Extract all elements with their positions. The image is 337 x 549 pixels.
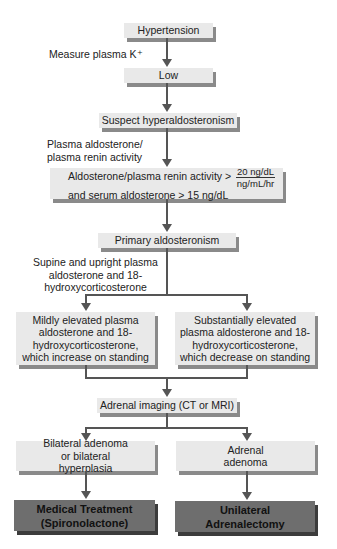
ratio-line-1: Aldosterone/plasma renin activity > — [68, 170, 231, 182]
connector-line — [166, 199, 168, 225]
node-label: Suspect hyperaldosteronism — [102, 114, 235, 127]
node-primary-aldosteronism: Primary aldosteronism — [98, 233, 236, 248]
arrowhead-icon — [242, 433, 252, 441]
node-label: Mildly elevated plasma aldosterone and 1… — [22, 314, 149, 364]
connector-line — [85, 294, 248, 296]
node-unilateral-adrenalectomy: Unilateral Adrenalectomy — [175, 501, 315, 532]
arrowhead-icon — [242, 303, 252, 311]
arrowhead-icon — [81, 433, 91, 441]
edge-label-plasma-ratio: Plasma aldosterone/ plasma renin activit… — [47, 138, 147, 163]
node-label: Hypertension — [138, 24, 200, 37]
fraction-numerator: 20 ng/dL — [236, 166, 275, 178]
node-suspect-hyperaldosteronism: Suspect hyperaldosteronism — [99, 113, 237, 128]
node-low: Low — [124, 68, 213, 83]
node-label: Adrenal adenoma — [216, 444, 275, 469]
node-ratio-criteria: Aldosterone/plasma renin activity > 20 n… — [50, 168, 283, 199]
node-medical-treatment: Medical Treatment (Spironolactone) — [14, 500, 155, 531]
node-adrenal-imaging: Adrenal imaging (CT or MRI) — [97, 398, 237, 413]
node-mildly-elevated: Mildly elevated plasma aldosterone and 1… — [16, 312, 155, 365]
edge-label-measure-k: Measure plasma K⁺ — [49, 48, 143, 61]
arrowhead-icon — [162, 224, 172, 232]
node-label: Low — [159, 69, 178, 82]
connector-line — [166, 128, 168, 160]
node-label: Medical Treatment (Spironolactone) — [34, 502, 135, 530]
ratio-line-2: and serum aldosterone > 15 ng/dL — [68, 189, 228, 201]
node-bilateral: Bilateral adenoma or bilateral hyperplas… — [16, 441, 155, 471]
connector-line — [166, 83, 168, 105]
node-hypertension: Hypertension — [124, 23, 213, 38]
connector-line — [166, 248, 168, 295]
connector-line — [85, 471, 87, 492]
connector-line — [246, 471, 248, 493]
edge-label-supine-upright: Supine and upright plasma aldosterone an… — [33, 256, 158, 294]
connector-line — [85, 427, 248, 429]
arrowhead-icon — [81, 303, 91, 311]
connector-line — [166, 38, 168, 60]
node-label: Adrenal imaging (CT or MRI) — [100, 399, 234, 412]
node-label: Bilateral adenoma or bilateral hyperplas… — [38, 437, 133, 475]
node-adrenal-adenoma: Adrenal adenoma — [176, 441, 315, 471]
arrowhead-icon — [162, 59, 172, 67]
arrowhead-icon — [162, 104, 172, 112]
arrowhead-icon — [162, 389, 172, 397]
node-label: Substantially elevated plasma aldosteron… — [178, 314, 312, 364]
arrowhead-icon — [242, 492, 252, 500]
connector-line — [166, 413, 168, 428]
node-label: Unilateral Adrenalectomy — [205, 503, 285, 531]
ratio-fraction: 20 ng/dLng/mL/hr — [236, 166, 275, 189]
arrowhead-icon — [81, 491, 91, 499]
fraction-denominator: ng/mL/hr — [237, 178, 275, 189]
node-substantially-elevated: Substantially elevated plasma aldosteron… — [175, 312, 315, 365]
arrowhead-icon — [162, 159, 172, 167]
node-label: Primary aldosteronism — [115, 234, 219, 247]
